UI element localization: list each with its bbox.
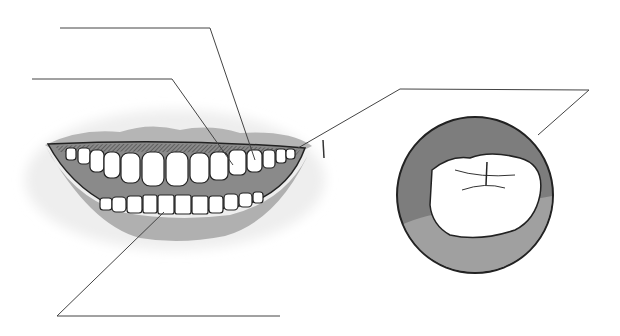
teeth-diagram	[0, 0, 620, 336]
mouth	[25, 110, 325, 250]
molar-magnified-view	[390, 117, 560, 280]
lip-crease-mark	[323, 140, 324, 158]
